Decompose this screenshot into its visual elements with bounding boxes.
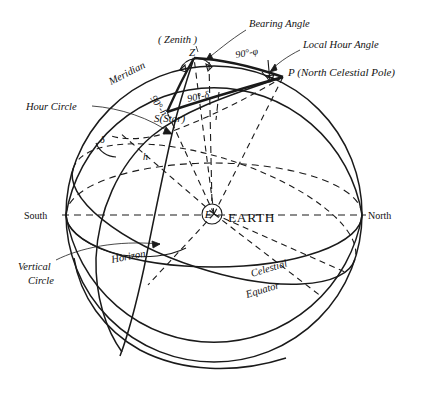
declination-angle-arc [96, 143, 116, 157]
co-declination-label: 90°-δ [186, 89, 210, 104]
vertical-circle-label-1: Vertical [18, 261, 51, 272]
earth-label: EARTH [228, 210, 275, 225]
hour-circle-leader-head [163, 127, 172, 134]
bearing-angle-arrowhead-left [180, 65, 186, 72]
horizon-back-arc [66, 163, 362, 215]
zenith-tick [196, 46, 198, 52]
hour-circle-label: Hour Circle [25, 101, 77, 112]
horizon-label: Horizon [109, 248, 146, 266]
altitude-label: h [143, 151, 148, 162]
declination-label: δ [100, 134, 105, 145]
pole-label: P (North Celestial Pole) [287, 66, 395, 79]
vertical-circle-leader-head [152, 241, 160, 248]
celestial-sphere-diagram: E EARTH ( Zenith ) Z Bearing Angle Local… [0, 0, 421, 394]
zenith-symbol: Z [189, 46, 196, 58]
earth-symbol: E [204, 208, 212, 220]
zenith-nadir-line [209, 62, 212, 205]
bearing-angle-leader-head [206, 53, 213, 60]
radius-to-equator-west [120, 133, 214, 214]
celestial-equator-front-arc [56, 168, 355, 313]
south-label: South [24, 210, 47, 221]
celestial-equator-back-arc [73, 115, 372, 260]
local-hour-angle-label: Local Hour Angle [302, 39, 379, 50]
meridian-lower-arc [66, 215, 362, 342]
radius-lower-left [148, 214, 214, 285]
north-label: North [368, 210, 391, 221]
meridian-label: Meridian [106, 59, 147, 87]
leader-lines [56, 30, 300, 260]
triangle-side-star-pole [167, 77, 283, 112]
zenith-label: ( Zenith ) [158, 34, 198, 46]
vertical-circle-label-2: Circle [28, 275, 54, 286]
celestial-equator-label-1: Celestial [249, 257, 288, 278]
co-latitude-label: 90°-φ [234, 45, 259, 60]
bearing-angle-label: Bearing Angle [249, 18, 310, 29]
